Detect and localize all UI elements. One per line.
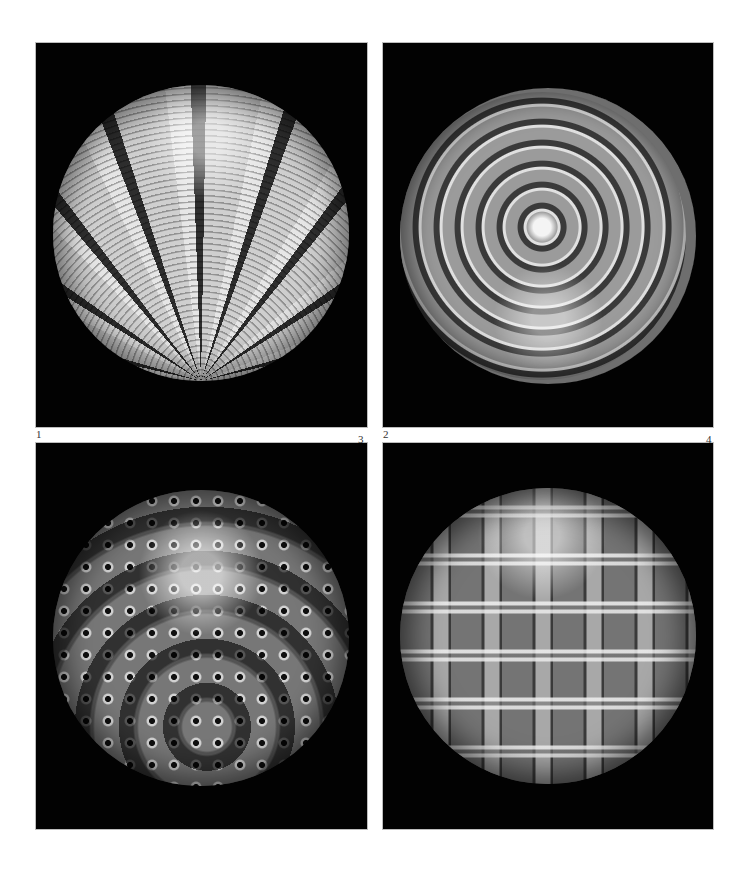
paperweight-image-scale-canes bbox=[400, 88, 696, 384]
plate-number-4: 4 bbox=[706, 434, 712, 445]
plate-number-1: 1 bbox=[36, 429, 42, 440]
plate-number-3: 3 bbox=[358, 434, 364, 445]
plate-2-photo bbox=[383, 43, 713, 427]
paperweight-image-concentric-canes bbox=[53, 490, 349, 786]
plate-number-2: 2 bbox=[383, 429, 389, 440]
plate-1-photo bbox=[36, 43, 367, 427]
paperweight-image-latticework bbox=[400, 488, 696, 784]
plate-4-photo bbox=[383, 443, 713, 829]
paperweight-image-radial-canes bbox=[53, 85, 349, 381]
plate-3-photo bbox=[36, 443, 367, 829]
